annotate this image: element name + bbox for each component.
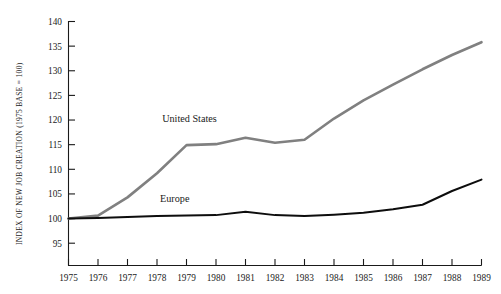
x-tick-label: 1987 bbox=[413, 273, 432, 283]
x-tick-label: 1975 bbox=[59, 273, 78, 283]
series-line-united-states bbox=[69, 42, 482, 218]
y-tick-label: 125 bbox=[48, 91, 62, 101]
job-creation-line-chart: INDEX OF NEW JOB CREATION (1975 BASE = 1… bbox=[0, 0, 501, 294]
x-tick-label: 1988 bbox=[443, 273, 462, 283]
x-tick-label: 1982 bbox=[266, 273, 285, 283]
y-tick-labels: 95100105110115120125130135140 bbox=[48, 17, 62, 249]
series-inline-labels: United StatesEurope bbox=[160, 113, 217, 204]
series-label-united-states: United States bbox=[162, 113, 217, 124]
x-tick-label: 1978 bbox=[148, 273, 167, 283]
y-tick-label: 95 bbox=[53, 239, 63, 249]
y-tick-label: 120 bbox=[48, 115, 62, 125]
y-tick-marks bbox=[69, 22, 76, 244]
chart-canvas: INDEX OF NEW JOB CREATION (1975 BASE = 1… bbox=[0, 0, 501, 294]
x-tick-label: 1977 bbox=[118, 273, 137, 283]
x-tick-label: 1986 bbox=[384, 273, 403, 283]
y-tick-label: 140 bbox=[48, 17, 62, 27]
series-line-europe bbox=[69, 180, 482, 219]
y-tick-label: 115 bbox=[48, 140, 62, 150]
series-label-europe: Europe bbox=[160, 193, 190, 204]
x-tick-label: 1979 bbox=[177, 273, 196, 283]
y-axis-label: INDEX OF NEW JOB CREATION (1975 BASE = 1… bbox=[15, 62, 24, 245]
x-tick-marks bbox=[69, 259, 482, 266]
x-tick-label: 1985 bbox=[354, 273, 373, 283]
y-tick-label: 105 bbox=[48, 189, 62, 199]
x-tick-label: 1983 bbox=[295, 273, 314, 283]
y-tick-label: 110 bbox=[48, 165, 62, 175]
x-tick-label: 1980 bbox=[207, 273, 226, 283]
y-tick-label: 135 bbox=[48, 42, 62, 52]
x-tick-label: 1976 bbox=[89, 273, 108, 283]
x-tick-label: 1981 bbox=[236, 273, 255, 283]
y-tick-label: 130 bbox=[48, 66, 62, 76]
y-tick-label: 100 bbox=[48, 214, 62, 224]
x-tick-label: 1984 bbox=[325, 273, 344, 283]
x-tick-labels: 1975197619771978197919801981198219831984… bbox=[59, 273, 491, 283]
data-series-group bbox=[69, 42, 482, 218]
x-tick-label: 1989 bbox=[472, 273, 491, 283]
